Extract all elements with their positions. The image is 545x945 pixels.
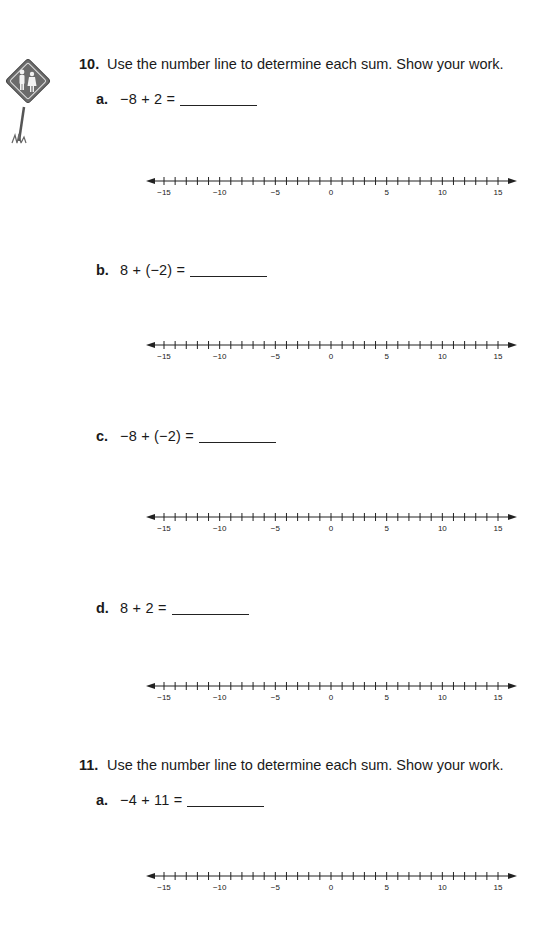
number-line-10c: −15−10−5051015 xyxy=(140,502,525,532)
tick-label: 15 xyxy=(494,524,503,532)
arrow-right-icon xyxy=(508,342,517,348)
problem-10-heading: 10. Use the number line to determine eac… xyxy=(79,55,504,73)
arrow-right-icon xyxy=(508,514,517,520)
tick-label: 15 xyxy=(494,352,503,360)
arrow-left-icon xyxy=(146,178,155,184)
answer-blank[interactable] xyxy=(180,92,257,106)
tick-label: −15 xyxy=(157,352,171,360)
tick-label: −5 xyxy=(271,188,281,196)
part-expression: −8 + 2 = xyxy=(120,90,175,108)
tick-label: 5 xyxy=(384,188,389,196)
tick-label: 5 xyxy=(384,883,389,891)
tick-label: 10 xyxy=(438,352,447,360)
tick-label: 15 xyxy=(494,883,503,891)
problem-number: 10. xyxy=(79,55,103,73)
part-expression: 8 + 2 = xyxy=(120,599,167,617)
problem-10d: d. 8 + 2 = xyxy=(96,599,249,617)
problem-instruction: Use the number line to determine each su… xyxy=(107,56,504,72)
arrow-left-icon xyxy=(146,873,155,879)
arrow-left-icon xyxy=(146,514,155,520)
problem-11-heading: 11. Use the number line to determine eac… xyxy=(79,756,504,774)
number-line-graphic: −15−10−5051015 xyxy=(140,166,525,196)
tick-label: −10 xyxy=(213,524,227,532)
tick-label: 0 xyxy=(329,883,334,891)
tick-label: −5 xyxy=(271,883,281,891)
tick-label: 0 xyxy=(329,188,334,196)
tick-label: −15 xyxy=(157,883,171,891)
arrow-right-icon xyxy=(508,873,517,879)
answer-blank[interactable] xyxy=(199,429,276,443)
tick-label: 10 xyxy=(438,524,447,532)
tick-label: −15 xyxy=(157,188,171,196)
number-line-10b: −15−10−5051015 xyxy=(140,330,525,360)
answer-blank[interactable] xyxy=(172,601,249,615)
tick-label: −10 xyxy=(213,693,227,701)
tick-label: 10 xyxy=(438,188,447,196)
tick-label: −5 xyxy=(271,524,281,532)
number-line-graphic: −15−10−5051015 xyxy=(140,330,525,360)
answer-blank[interactable] xyxy=(187,793,264,807)
arrow-left-icon xyxy=(146,683,155,689)
tick-label: 15 xyxy=(494,693,503,701)
number-line-10d: −15−10−5051015 xyxy=(140,671,525,701)
tick-label: −10 xyxy=(213,188,227,196)
problem-11a: a. −4 + 11 = xyxy=(96,791,264,809)
part-letter: b. xyxy=(96,261,114,279)
tick-label: 0 xyxy=(329,693,334,701)
arrow-right-icon xyxy=(508,683,517,689)
tick-label: 10 xyxy=(438,693,447,701)
number-line-graphic: −15−10−5051015 xyxy=(140,671,525,701)
number-line-graphic: −15−10−5051015 xyxy=(140,502,525,532)
part-letter: c. xyxy=(96,427,114,445)
tick-label: 5 xyxy=(384,693,389,701)
part-expression: −8 + (−2) = xyxy=(120,427,194,445)
problem-10b: b. 8 + (−2) = xyxy=(96,261,267,279)
part-letter: a. xyxy=(96,90,114,108)
tick-label: 5 xyxy=(384,352,389,360)
tick-label: −5 xyxy=(271,352,281,360)
problem-10a: a. −8 + 2 = xyxy=(96,90,257,108)
part-expression: 8 + (−2) = xyxy=(120,261,185,279)
tick-label: 15 xyxy=(494,188,503,196)
arrow-right-icon xyxy=(508,178,517,184)
number-line-11a: −15−10−5051015 xyxy=(140,861,525,891)
tick-label: 0 xyxy=(329,524,334,532)
number-line-graphic: −15−10−5051015 xyxy=(140,861,525,891)
answer-blank[interactable] xyxy=(190,263,267,277)
tick-label: −15 xyxy=(157,524,171,532)
tick-label: −15 xyxy=(157,693,171,701)
problem-number: 11. xyxy=(79,756,103,774)
problem-10c: c. −8 + (−2) = xyxy=(96,427,276,445)
pedestrian-crossing-sign-icon xyxy=(2,55,54,145)
part-expression: −4 + 11 = xyxy=(120,791,182,809)
tick-label: 0 xyxy=(329,352,334,360)
part-letter: a. xyxy=(96,791,114,809)
tick-label: 5 xyxy=(384,524,389,532)
problem-instruction: Use the number line to determine each su… xyxy=(107,757,504,773)
tick-label: −10 xyxy=(213,352,227,360)
tick-label: −5 xyxy=(271,693,281,701)
arrow-left-icon xyxy=(146,342,155,348)
tick-label: −10 xyxy=(213,883,227,891)
tick-label: 10 xyxy=(438,883,447,891)
number-line-10a: −15−10−5051015 xyxy=(140,166,525,196)
part-letter: d. xyxy=(96,599,114,617)
